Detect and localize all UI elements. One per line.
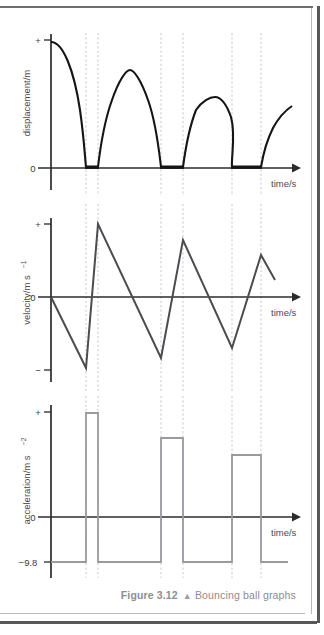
velocity-x-axis-label: time/s [271,307,297,318]
figure-caption-text: Bouncing ball graphs [195,589,296,601]
figure-caption-number: Figure 3.12 [121,589,178,601]
acceleration-y-axis-label-exponent: −2 [20,437,27,445]
acceleration-x-axis-label: time/s [271,527,297,538]
displacement-y-axis-label: displacement/m [21,70,32,137]
displacement-arc-1 [51,42,86,167]
velocity-y-axis-label-exponent: −1 [20,260,27,268]
figure-caption: Figure 3.12▲Bouncing ball graphs [0,589,296,601]
figure-container: + 0 displacement/m time/s + 0 − [0,0,324,635]
velocity-x-axis-arrow [292,293,301,302]
acceleration-tick-label-plus: + [35,407,41,418]
displacement-x-axis-label: time/s [271,178,297,189]
acceleration-y-axis-label-group: acceleration/m s −2 [20,437,32,524]
graphs-svg: + 0 displacement/m time/s + 0 − [0,0,324,635]
acceleration-tick-label-minus: −9.8 [19,557,38,568]
velocity-y-axis-label: velocity/m s [21,275,32,325]
panel-velocity: + 0 − velocity/m s −1 time/s [20,204,301,392]
figure-caption-triangle-icon: ▲ [183,591,192,601]
velocity-tick-label-plus: + [35,219,41,230]
displacement-tick-label-plus: + [35,35,41,46]
displacement-gridlines [86,33,261,196]
panel-acceleration: + 0 −9.8 acceleration/m s −2 time/s [19,396,301,578]
acceleration-x-axis-arrow [292,513,301,522]
velocity-tick-label-minus: − [35,365,41,376]
acceleration-square-wave [51,413,288,562]
displacement-x-axis-arrow [292,164,301,173]
displacement-arc-2 [98,70,161,167]
acceleration-gridlines [86,396,261,578]
velocity-y-axis-label-group: velocity/m s −1 [20,260,32,325]
displacement-arc-4 [261,106,292,167]
velocity-sawtooth-curve [51,224,275,368]
acceleration-y-axis-label: acceleration/m s [21,455,32,524]
displacement-tick-label-zero: 0 [30,163,35,174]
velocity-gridlines [86,204,261,392]
panel-displacement: + 0 displacement/m time/s [21,33,301,196]
displacement-arc-3 [183,97,233,167]
